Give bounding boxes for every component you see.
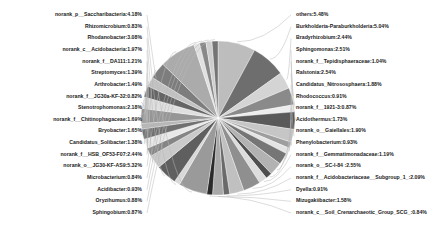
pie-slice-label: norank_f__Gemmatimonadaceae:1.19% <box>296 151 394 157</box>
pie-slice-label: Dyella:0.91% <box>296 186 328 192</box>
pie-slice-label: Microbacterium:0.84% <box>87 174 142 180</box>
pie-slice-label: Phenylobacterium:0.93% <box>296 139 358 145</box>
pie-slice-label: norank_f__JG30a-KF-32:0.82% <box>66 93 142 99</box>
pie-slice-label: Oryzihumus:0.88% <box>96 197 143 203</box>
pie-slice-label: Rhizomicrobium:0.83% <box>85 23 142 29</box>
pie-slice-label: Acidothermus:1.73% <box>296 116 348 122</box>
pie-slice-label: Arthrobacter:1.49% <box>94 81 142 87</box>
pie-chart: others:5.48%Burkholderia-Paraburkholderi… <box>0 0 438 225</box>
pie-slice-label: norank_p__Saccharibacteria:4.18% <box>55 11 142 17</box>
pie-slice-label: Bradyrhizobium:2.44% <box>296 34 352 40</box>
pie-slice-label: Candidatus_Nitrososphaera:1.88% <box>296 81 382 87</box>
pie-slice-label: Sphingobium:0.87% <box>92 209 142 215</box>
leader-line <box>286 38 291 79</box>
leader-line <box>270 27 291 59</box>
pie-slice-label: Ralstonia:2.54% <box>296 69 336 75</box>
pie-slice-label: Rhodanobacter:3.08% <box>88 34 143 40</box>
pie-slice-label: Candidatus_Solibacter:1.38% <box>69 139 142 145</box>
pie-slice-label: norank_f__Tepidisphaeraceae:1.04% <box>296 58 387 64</box>
pie-slice-label: norank_c__Acidobacteria:1.97% <box>62 46 142 52</box>
pie-slice-label: Rhodococcus:0.91% <box>296 93 347 99</box>
pie-slice-label: norank_f__Acidobacteriaceae__Subgroup_1_… <box>296 174 425 180</box>
pie-slice-label: Acidibacter:0.93% <box>97 186 142 192</box>
pie-slice-label: Mizugakiibacter:1.58% <box>296 197 352 203</box>
pie-slice-label: norank_c__Soil_Crenarchaeotic_Group_SCG_… <box>296 209 427 215</box>
pie-slice-label: norank_o__JG30-KF-AS9:5.32% <box>63 162 142 168</box>
leader-line <box>237 15 291 42</box>
pie-slice-label: norank_f__1921-3:0.87% <box>296 104 357 110</box>
pie-slice-label: norank_o__Gaiellales:1.90% <box>296 127 366 133</box>
pie-slice-label: norank_o__SC-I-84 :2.55% <box>296 162 361 168</box>
pie-slice-label: norank_f__Chitinophagaceae:1.69% <box>53 116 142 122</box>
pie-slice-group <box>141 41 295 195</box>
pie-slice-label: others:5.48% <box>296 11 329 17</box>
pie-slice-label: Sphingomonas:2.51% <box>296 46 350 52</box>
pie-slice-label: Bryobacter:1.65% <box>98 127 142 133</box>
pie-slice-label: Streptomyces:1.39% <box>91 69 142 75</box>
pie-slice-label: norank_f__DA111:1.21% <box>82 58 142 64</box>
pie-chart-canvas: others:5.48%Burkholderia-Paraburkholderi… <box>0 0 438 225</box>
pie-slice-label: Burkholderia-Paraburkholderia:5.04% <box>296 23 389 29</box>
pie-slice-label: Stenotrophomonas:2.18% <box>78 104 142 110</box>
leader-line <box>209 196 291 213</box>
pie-slice-label: norank_f__HSB_OF53-F07:2.44% <box>60 151 142 157</box>
